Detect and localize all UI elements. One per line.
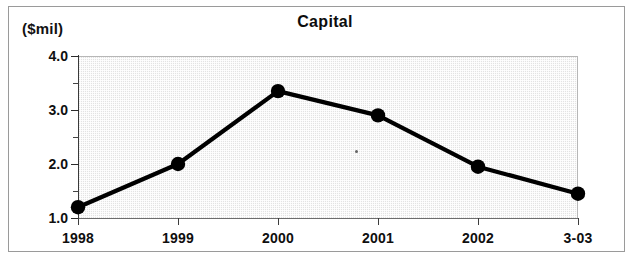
x-tick-label: 3-03 xyxy=(538,230,618,246)
y-tick-minor xyxy=(73,137,79,138)
x-tick-label: 2001 xyxy=(338,230,418,246)
x-tick xyxy=(78,218,79,225)
x-tick xyxy=(378,218,379,225)
y-tick-label: 1.0 xyxy=(6,211,68,225)
chart-title-text: Capital xyxy=(297,13,352,30)
y-tick-major xyxy=(71,56,79,57)
y-tick-label: 2.0 xyxy=(6,157,68,171)
x-tick xyxy=(478,218,479,225)
y-tick-label: 3.0 xyxy=(6,103,68,117)
y-tick-minor xyxy=(73,83,79,84)
x-tick-label: 1998 xyxy=(38,230,118,246)
x-tick-label: 2000 xyxy=(238,230,318,246)
y-tick-label: 4.0 xyxy=(6,49,68,63)
x-tick xyxy=(578,218,579,225)
plot-area xyxy=(78,56,578,218)
x-tick-label: 1999 xyxy=(138,230,218,246)
x-tick xyxy=(278,218,279,225)
y-tick-minor xyxy=(73,191,79,192)
chart-title: Capital xyxy=(0,13,638,31)
capital-chart-figure: ($mil) Capital 1.02.03.04.0 199819992000… xyxy=(0,0,638,277)
x-tick-label: 2002 xyxy=(438,230,518,246)
x-axis-spine xyxy=(78,218,579,219)
y-tick-major xyxy=(71,164,79,165)
x-tick xyxy=(178,218,179,225)
y-tick-major xyxy=(71,110,79,111)
scan-speck xyxy=(355,150,358,153)
